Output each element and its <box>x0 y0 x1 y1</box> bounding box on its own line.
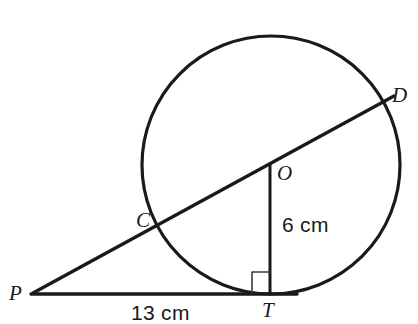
label-radius-measure: 6 cm <box>282 213 329 236</box>
secant-line-pd <box>33 96 394 293</box>
label-point-t: T <box>262 298 275 322</box>
label-point-o: O <box>277 161 292 185</box>
label-point-c: C <box>136 208 151 232</box>
label-point-p: P <box>8 281 22 305</box>
label-point-d: D <box>391 83 407 107</box>
right-angle-icon <box>252 272 270 293</box>
label-tangent-measure: 13 cm <box>131 301 190 324</box>
geometry-canvas: P C D O T 6 cm 13 cm <box>0 0 418 324</box>
geometry-figure: P C D O T 6 cm 13 cm <box>0 0 418 324</box>
